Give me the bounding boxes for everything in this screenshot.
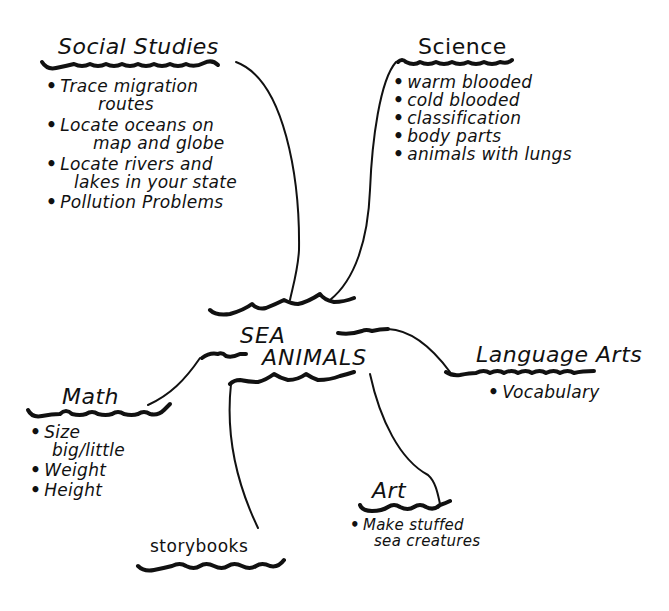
social-studies-item-cont: map and globe: [93, 135, 225, 152]
language-arts-title: Language Arts: [476, 344, 642, 366]
bullet-icon: •: [393, 108, 404, 128]
bullet-icon: •: [393, 126, 404, 146]
center-title-line1: SEA: [240, 325, 286, 347]
bullet-icon: •: [488, 382, 499, 402]
bullet-icon: •: [30, 422, 41, 442]
bullet-icon: •: [46, 115, 57, 135]
math-item-cont: big/little: [52, 442, 125, 459]
art-item: •Make stuffed: [350, 518, 464, 533]
science-item: •cold blooded: [393, 92, 520, 109]
science-item: •animals with lungs: [393, 146, 572, 163]
bullet-icon: •: [46, 154, 57, 174]
center-bottom-wave: [230, 372, 354, 384]
bullet-icon: •: [393, 144, 404, 164]
bullet-icon: •: [46, 76, 57, 96]
bullet-icon: •: [393, 90, 404, 110]
math-item: •Size: [30, 424, 80, 441]
science-item: •body parts: [393, 128, 501, 145]
social-studies-wave: [42, 61, 218, 68]
math-item: •Height: [30, 482, 102, 499]
bullet-icon: •: [46, 192, 57, 212]
center-left-wave: [202, 353, 246, 358]
math-title: Math: [62, 386, 119, 408]
storybooks-connector: [230, 384, 258, 528]
social-studies-item: •Locate oceans on: [46, 117, 214, 134]
social-studies-item-cont: lakes in your state: [74, 174, 237, 191]
science-connector: [330, 62, 396, 300]
science-item: •warm blooded: [393, 74, 532, 91]
storybooks-title: Storybooks: [150, 538, 248, 555]
social-studies-item: •Pollution Problems: [46, 194, 223, 211]
bullet-icon: •: [30, 460, 41, 480]
bullet-icon: •: [30, 480, 41, 500]
sea-animals-concept-map: Social Studies •Trace migration routes •…: [0, 0, 669, 611]
art-title: Art: [372, 480, 406, 502]
social-studies-connector: [236, 62, 299, 300]
language-arts-wave: [446, 371, 594, 375]
center-title-line2: ANIMALS: [262, 347, 367, 369]
social-studies-item: •Trace migration: [46, 78, 198, 95]
center-right-wave: [338, 329, 388, 334]
bullet-icon: •: [350, 516, 360, 534]
science-item: •classification: [393, 110, 521, 127]
social-studies-item: •Locate rivers and: [46, 156, 213, 173]
bullet-icon: •: [393, 72, 404, 92]
language-arts-item: •Vocabulary: [488, 384, 600, 401]
art-item-cont: sea creatures: [374, 534, 480, 549]
math-connector: [148, 358, 200, 405]
language-arts-connector: [388, 329, 450, 372]
social-studies-item-cont: routes: [98, 96, 154, 113]
storybooks-wave: [138, 560, 284, 571]
math-item: •Weight: [30, 462, 106, 479]
social-studies-title: Social Studies: [58, 36, 219, 58]
science-title: Science: [418, 36, 507, 58]
science-wave: [398, 60, 512, 64]
